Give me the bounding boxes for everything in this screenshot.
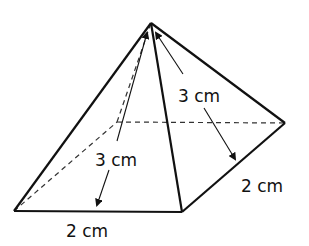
label-base-front: 2 cm: [66, 221, 108, 241]
right-slant-arrow-down: [204, 108, 235, 159]
right-slant-arrow-up: [156, 33, 183, 74]
pyramid-diagram: 3 cm 3 cm 2 cm 2 cm: [0, 0, 309, 246]
label-slant-right: 3 cm: [178, 86, 220, 106]
edge-apex-front-left: [14, 23, 151, 211]
hidden-base-back-edge: [117, 122, 285, 123]
edge-base-front: [14, 211, 182, 212]
edge-apex-front-right: [151, 23, 182, 212]
edge-base-right: [182, 123, 285, 212]
edge-apex-back-right: [151, 23, 285, 123]
label-base-right: 2 cm: [241, 176, 283, 196]
label-slant-front: 3 cm: [95, 150, 137, 170]
front-slant-arrow-down: [97, 170, 109, 205]
